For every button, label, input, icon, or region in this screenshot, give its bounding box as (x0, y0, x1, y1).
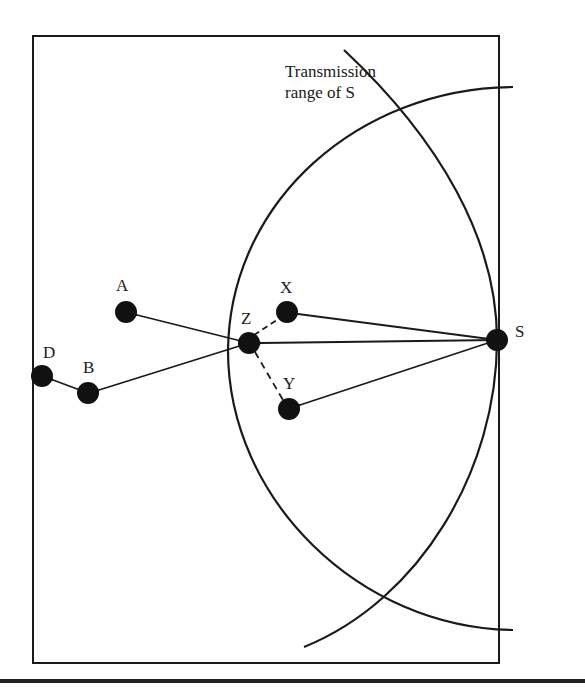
edge-s-y (300, 340, 497, 405)
label-s: S (515, 322, 524, 341)
edge-s-z (261, 340, 497, 343)
label-y: Y (283, 374, 295, 393)
node-b (77, 382, 99, 404)
node-d (31, 365, 53, 387)
edge-z-y-dashed (255, 352, 283, 400)
label-b: B (83, 358, 94, 377)
annotation-line1: Transmission (285, 62, 377, 81)
edge-s-x (298, 314, 497, 340)
node-a (115, 301, 137, 323)
label-x: X (280, 278, 292, 297)
bottom-rule (0, 679, 585, 683)
annotation-line2: range of S (285, 83, 355, 102)
network-diagram: A X Z S Y B D Transmission range of S (0, 0, 585, 698)
node-x (276, 301, 298, 323)
node-z (238, 332, 260, 354)
s-boundary-arc (304, 50, 497, 647)
transmission-range-arc (228, 87, 513, 630)
label-a: A (116, 276, 129, 295)
label-d: D (43, 343, 55, 362)
label-z: Z (241, 309, 251, 328)
node-y (278, 398, 300, 420)
edge-z-x-dashed (254, 318, 280, 335)
node-s (486, 329, 508, 351)
diagram-frame (33, 36, 499, 663)
edge-z-a (137, 315, 249, 343)
edge-z-b (99, 343, 249, 390)
